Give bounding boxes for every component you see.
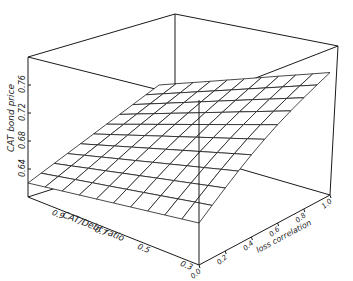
y-axis-line: [199, 195, 330, 265]
surface-chart: 0.640.680.720.76 CAT bond price 0.90.70.…: [0, 0, 353, 281]
svg-text:0.5: 0.5: [136, 242, 151, 255]
y-axis: 0.00.20.40.60.81.0 loss correlation: [189, 195, 334, 281]
x-axis: 0.90.70.50.3 CAT/Debt ratio: [51, 208, 194, 272]
y-ticks: 0.00.20.40.60.81.0: [189, 195, 334, 281]
z-axis-label: CAT bond price: [6, 83, 16, 152]
z-axis: 0.640.680.720.76 CAT bond price: [6, 75, 31, 177]
z-ticks: 0.640.680.720.76: [18, 75, 31, 177]
svg-text:0.64: 0.64: [18, 159, 27, 177]
svg-text:0.3: 0.3: [179, 259, 194, 272]
x-axis-label: CAT/Debt ratio: [61, 210, 126, 244]
surface-mesh: [28, 73, 330, 224]
svg-text:0.76: 0.76: [18, 75, 27, 93]
svg-text:0.72: 0.72: [18, 103, 27, 121]
svg-text:0.68: 0.68: [18, 131, 27, 149]
y-axis-label: loss correlation: [255, 218, 313, 255]
